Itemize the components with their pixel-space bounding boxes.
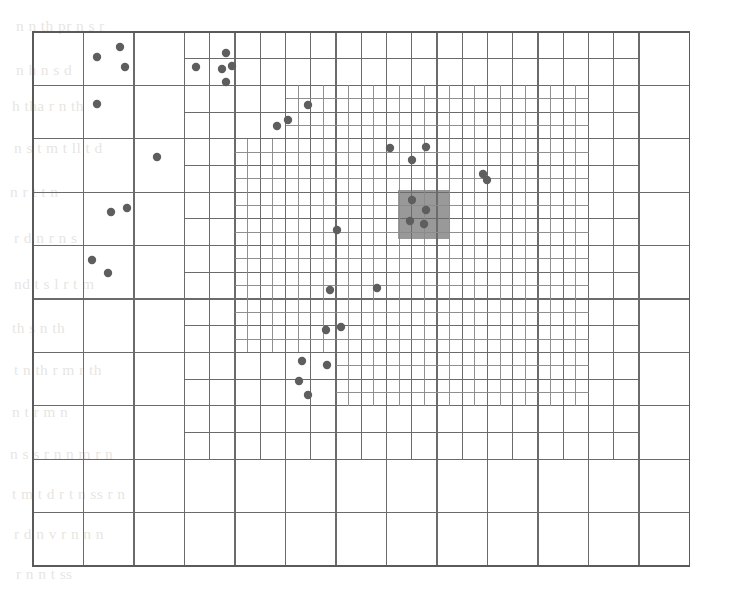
data-point — [326, 286, 334, 294]
data-point — [222, 49, 230, 57]
data-point — [93, 53, 101, 61]
data-point — [322, 326, 330, 334]
data-point — [93, 100, 101, 108]
data-point — [422, 143, 430, 151]
highlighted-cell — [398, 190, 449, 239]
data-point — [121, 63, 129, 71]
highlight-cell-layer — [398, 190, 449, 239]
data-point — [298, 357, 306, 365]
data-point — [483, 176, 491, 184]
data-point-highlighted — [422, 206, 430, 214]
data-point — [88, 256, 96, 264]
data-point — [153, 153, 161, 161]
data-point — [273, 122, 281, 130]
data-point — [228, 62, 236, 70]
data-point — [386, 144, 394, 152]
data-point — [304, 101, 312, 109]
data-point-highlighted — [420, 220, 428, 228]
data-point — [373, 284, 381, 292]
data-point — [218, 65, 226, 73]
data-point — [107, 208, 115, 216]
data-point — [333, 226, 341, 234]
data-point-highlighted — [406, 217, 414, 225]
data-point — [123, 204, 131, 212]
data-point-highlighted — [408, 196, 416, 204]
data-point — [408, 156, 416, 164]
data-point — [222, 78, 230, 86]
adaptive-grid-canvas — [0, 0, 742, 593]
adaptive-grid-figure — [0, 0, 742, 593]
data-point — [104, 269, 112, 277]
data-point — [192, 63, 200, 71]
data-point — [284, 116, 292, 124]
data-point — [323, 361, 331, 369]
data-point — [116, 43, 124, 51]
data-point — [295, 377, 303, 385]
data-point — [337, 323, 345, 331]
grid-lines-layer — [33, 32, 690, 566]
data-point — [304, 391, 312, 399]
